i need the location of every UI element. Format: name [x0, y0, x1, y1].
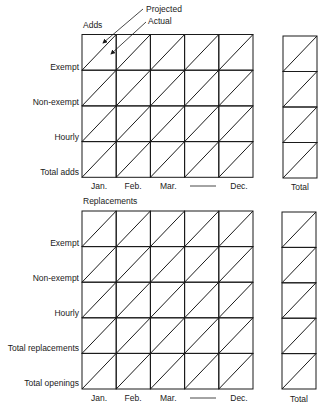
- cell-diagonal: [185, 353, 219, 389]
- cell-diagonal: [150, 70, 184, 106]
- cell-diagonal: [82, 35, 116, 71]
- cell-diagonal: [185, 247, 219, 283]
- adds-month-dec: Dec.: [222, 181, 256, 191]
- replacements-total-column: [282, 212, 316, 389]
- cell-diagonal: [185, 142, 219, 178]
- cell-diagonal: [185, 106, 219, 142]
- projected-label: Projected: [146, 4, 182, 14]
- cell-diagonal: [116, 282, 150, 318]
- repl-row-total-replacements: Total replacements: [8, 343, 79, 353]
- cell-diagonal: [219, 353, 253, 389]
- replacements-grid: [82, 211, 253, 389]
- repl-row-exempt: Exempt: [50, 238, 79, 248]
- cell-diagonal: [219, 106, 253, 142]
- cell-diagonal: [82, 247, 116, 283]
- cell-diagonal: [82, 353, 116, 389]
- adds-row-hourly: Hourly: [54, 132, 79, 142]
- replacements-section-title: Replacements: [83, 196, 137, 206]
- adds-grid: [82, 35, 253, 178]
- cell-diagonal: [283, 36, 317, 72]
- cell-diagonal: [116, 70, 150, 106]
- adds-row-total-adds: Total adds: [40, 167, 79, 177]
- cell-diagonal: [116, 106, 150, 142]
- repl-month-jan: Jan.: [82, 393, 116, 403]
- repl-month-dec: Dec.: [222, 393, 256, 403]
- cell-diagonal: [219, 35, 253, 71]
- adds-total-column: [283, 36, 317, 178]
- adds-month-feb: Feb.: [116, 181, 150, 191]
- cell-diagonal: [219, 211, 253, 247]
- cell-diagonal: [283, 143, 317, 179]
- cell-diagonal: [185, 318, 219, 354]
- cell-diagonal: [282, 318, 316, 353]
- actual-label: Actual: [148, 16, 172, 26]
- adds-month-mar: Mar.: [160, 181, 177, 191]
- adds-month-jan: Jan.: [82, 181, 116, 191]
- cell-diagonal: [283, 107, 317, 143]
- repl-row-hourly: Hourly: [54, 308, 79, 318]
- cell-diagonal: [282, 283, 316, 318]
- cell-diagonal: [282, 212, 316, 247]
- cell-diagonal: [116, 247, 150, 283]
- adds-section-title: Adds: [83, 20, 102, 30]
- projected-leader-arrow: [103, 9, 143, 43]
- cell-diagonal: [82, 318, 116, 354]
- cell-diagonal: [150, 211, 184, 247]
- adds-row-non-exempt: Non-exempt: [33, 97, 79, 107]
- cell-diagonal: [150, 142, 184, 178]
- cell-diagonal: [82, 70, 116, 106]
- adds-row-exempt: Exempt: [50, 62, 79, 72]
- cell-diagonal: [116, 142, 150, 178]
- cell-diagonal: [116, 35, 150, 71]
- adds-total-label: Total: [283, 182, 317, 192]
- cell-diagonal: [82, 106, 116, 142]
- cell-diagonal: [219, 318, 253, 354]
- cell-diagonal: [185, 35, 219, 71]
- repl-row-total-openings: Total openings: [24, 378, 79, 388]
- cell-diagonal: [219, 282, 253, 318]
- cell-diagonal: [116, 318, 150, 354]
- repl-month-mar: Mar.: [160, 393, 177, 403]
- cell-diagonal: [82, 142, 116, 178]
- cell-diagonal: [282, 354, 316, 389]
- cell-diagonal: [116, 353, 150, 389]
- cell-diagonal: [150, 106, 184, 142]
- cell-diagonal: [116, 211, 150, 247]
- cell-diagonal: [82, 211, 116, 247]
- cell-diagonal: [282, 247, 316, 282]
- cell-diagonal: [219, 70, 253, 106]
- cell-diagonal: [219, 142, 253, 178]
- cell-diagonal: [150, 353, 184, 389]
- cell-diagonal: [150, 318, 184, 354]
- cell-diagonal: [185, 282, 219, 318]
- repl-total-label: Total: [282, 394, 316, 404]
- cell-diagonal: [185, 70, 219, 106]
- repl-row-non-exempt: Non-exempt: [33, 273, 79, 283]
- cell-diagonal: [185, 211, 219, 247]
- cell-diagonal: [219, 247, 253, 283]
- cell-diagonal: [150, 282, 184, 318]
- cell-diagonal: [283, 72, 317, 108]
- cell-diagonal: [150, 35, 184, 71]
- repl-month-feb: Feb.: [116, 393, 150, 403]
- cell-diagonal: [150, 247, 184, 283]
- cell-diagonal: [82, 282, 116, 318]
